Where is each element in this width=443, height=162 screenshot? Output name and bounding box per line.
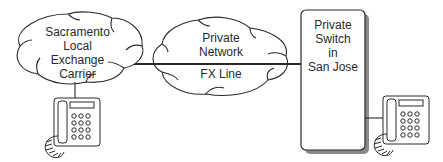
label-line: Private <box>301 18 365 32</box>
telephone-icon <box>45 98 100 158</box>
fx-line-label: FX Line <box>186 67 256 81</box>
label-line: Carrier <box>40 67 115 81</box>
label-line: Sacramento <box>40 25 115 39</box>
private-network-label: Private Network <box>186 31 256 59</box>
label-line: Exchange <box>40 53 115 67</box>
sacramento-cloud-label: Sacramento Local Exchange Carrier <box>40 25 115 81</box>
label-line: Private <box>186 31 256 45</box>
label-line: Network <box>186 45 256 59</box>
label-line: San Jose <box>301 60 365 74</box>
telephone-icon <box>374 96 429 156</box>
fx-line-diagram: Sacramento Local Exchange Carrier Privat… <box>0 0 443 162</box>
label-line: Local <box>40 39 115 53</box>
label-line: Switch <box>301 32 365 46</box>
private-switch-label: Private Switch in San Jose <box>301 18 365 74</box>
label-line: in <box>301 46 365 60</box>
